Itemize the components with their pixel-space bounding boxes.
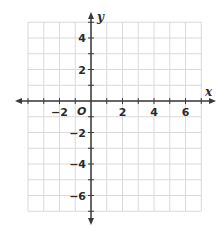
y-tick-label: −2 [69,127,86,140]
x-tick-label: 4 [150,106,158,119]
y-tick-label: 2 [78,64,86,77]
y-tick-label: −6 [69,190,86,203]
x-tick-label: 2 [119,106,127,119]
x-axis-left-arrow-icon [15,98,22,104]
y-tick-label: 4 [78,32,86,45]
x-tick-label: 6 [182,106,190,119]
y-axis-down-arrow-icon [88,218,94,225]
origin-label: O [77,105,86,118]
x-axis-label: x [204,85,213,99]
y-axis-label: y [96,10,105,24]
y-axis-up-arrow-icon [88,12,94,19]
coordinate-plane: −224642−2−4−6 x y O [0,0,220,227]
y-tick-label: −4 [69,158,86,171]
x-tick-label: −2 [51,106,68,119]
